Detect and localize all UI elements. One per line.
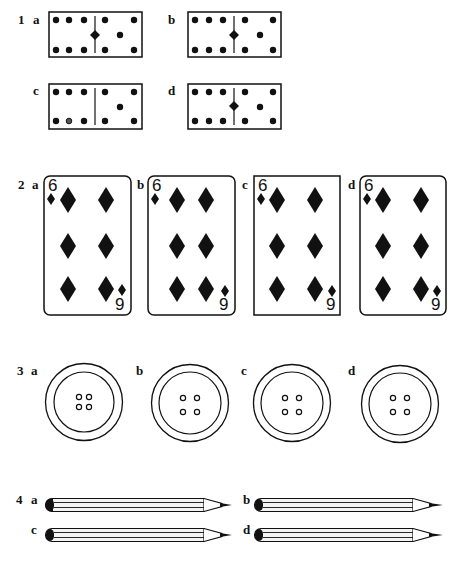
domino-b[interactable] bbox=[187, 11, 282, 58]
question-number: 3 bbox=[17, 364, 24, 377]
option-letter: a bbox=[31, 493, 38, 506]
option-letter: b bbox=[168, 13, 175, 26]
question-number: 2 bbox=[18, 178, 25, 191]
button-d[interactable] bbox=[360, 364, 440, 444]
option-letter: c bbox=[242, 178, 248, 191]
pencil-c[interactable] bbox=[44, 527, 234, 543]
domino-c[interactable] bbox=[48, 83, 143, 130]
button-c[interactable] bbox=[252, 363, 332, 443]
pencil-b[interactable] bbox=[253, 497, 445, 513]
domino-d[interactable] bbox=[187, 83, 282, 130]
card-c[interactable]: 6 9 bbox=[253, 175, 341, 316]
option-letter: d bbox=[243, 523, 250, 536]
option-letter: b bbox=[136, 364, 143, 377]
rank-bottom: 9 bbox=[115, 295, 124, 315]
option-letter: b bbox=[137, 178, 144, 191]
option-letter: a bbox=[33, 13, 40, 26]
question-number: 4 bbox=[16, 493, 23, 506]
domino-a[interactable] bbox=[48, 11, 143, 58]
rank-top: 6 bbox=[364, 176, 373, 196]
rank-bottom: 9 bbox=[326, 295, 335, 315]
option-letter: b bbox=[243, 493, 250, 506]
option-letter: a bbox=[32, 178, 39, 191]
option-letter: d bbox=[168, 84, 175, 97]
question-number: 1 bbox=[18, 13, 25, 26]
button-a[interactable] bbox=[44, 362, 124, 442]
button-b[interactable] bbox=[150, 363, 230, 443]
card-b[interactable]: 6 9 bbox=[147, 175, 236, 316]
option-letter: c bbox=[31, 523, 37, 536]
rank-bottom: 9 bbox=[431, 295, 440, 315]
rank-top: 6 bbox=[258, 176, 267, 196]
card-d[interactable]: 6 9 bbox=[359, 175, 447, 316]
pencil-a[interactable] bbox=[44, 497, 234, 513]
pencil-d[interactable] bbox=[253, 527, 445, 543]
card-a[interactable]: 6 9 bbox=[43, 175, 132, 316]
option-letter: c bbox=[33, 84, 39, 97]
option-letter: d bbox=[348, 364, 355, 377]
rank-top: 6 bbox=[48, 176, 57, 196]
option-letter: d bbox=[348, 178, 355, 191]
rank-top: 6 bbox=[152, 176, 161, 196]
option-letter: a bbox=[31, 364, 38, 377]
option-letter: c bbox=[241, 364, 247, 377]
rank-bottom: 9 bbox=[219, 295, 228, 315]
